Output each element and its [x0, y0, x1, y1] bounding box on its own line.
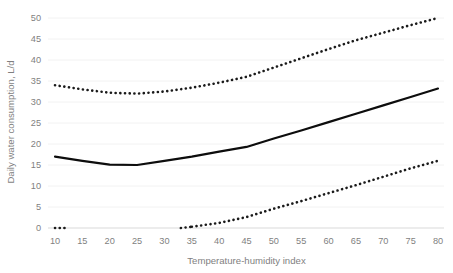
- y-tick-label-30: 30: [31, 97, 41, 107]
- y-tick-label-0: 0: [36, 223, 41, 233]
- chart-container: 0510152025303540455010152025303540455055…: [0, 0, 453, 273]
- x-tick-label-80: 80: [433, 236, 443, 246]
- line-chart: 0510152025303540455010152025303540455055…: [0, 0, 453, 273]
- x-tick-label-10: 10: [50, 236, 60, 246]
- x-tick-label-70: 70: [378, 236, 388, 246]
- x-tick-label-50: 50: [269, 236, 279, 246]
- x-tick-label-35: 35: [187, 236, 197, 246]
- y-tick-label-35: 35: [31, 76, 41, 86]
- x-tick-label-65: 65: [351, 236, 361, 246]
- plot-background: [38, 8, 447, 232]
- y-tick-label-5: 5: [36, 202, 41, 212]
- y-tick-label-40: 40: [31, 55, 41, 65]
- x-tick-label-15: 15: [77, 236, 87, 246]
- x-tick-label-45: 45: [241, 236, 251, 246]
- y-tick-label-10: 10: [31, 181, 41, 191]
- y-axis-title: Daily water consumption, L/d: [5, 60, 16, 183]
- x-tick-label-55: 55: [296, 236, 306, 246]
- y-tick-label-20: 20: [31, 139, 41, 149]
- y-tick-label-45: 45: [31, 34, 41, 44]
- x-tick-label-25: 25: [132, 236, 142, 246]
- y-tick-label-25: 25: [31, 118, 41, 128]
- x-tick-label-20: 20: [105, 236, 115, 246]
- x-tick-label-75: 75: [406, 236, 416, 246]
- x-tick-label-60: 60: [323, 236, 333, 246]
- x-tick-label-40: 40: [214, 236, 224, 246]
- figure-caption-sliver: [0, 265, 453, 273]
- x-tick-label-30: 30: [159, 236, 169, 246]
- y-tick-label-15: 15: [31, 160, 41, 170]
- y-tick-label-50: 50: [31, 13, 41, 23]
